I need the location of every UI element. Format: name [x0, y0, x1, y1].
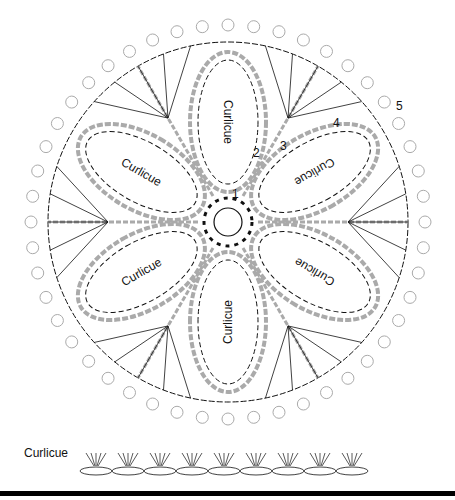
- picot: [393, 315, 405, 327]
- picot: [66, 336, 78, 348]
- picot: [404, 141, 416, 153]
- fan-stitch: [288, 326, 318, 378]
- fan-stitch: [288, 326, 341, 362]
- picot: [51, 118, 63, 130]
- fan-stitch: [348, 166, 399, 222]
- picot: [342, 372, 354, 384]
- picot: [248, 411, 260, 423]
- picot: [297, 398, 309, 410]
- bottom-rule: [0, 491, 455, 496]
- legend-chain: [304, 467, 336, 475]
- round-number: 5: [396, 99, 403, 113]
- picot: [417, 242, 429, 254]
- crochet-diagram: CurlicueCurlicueCurlicueCurlicueCurlicue…: [0, 0, 455, 500]
- legend-chain: [112, 467, 144, 475]
- picot: [222, 19, 234, 31]
- picot: [378, 336, 390, 348]
- picot: [321, 45, 333, 57]
- legend-chain: [240, 467, 272, 475]
- svg-text:Curlicue: Curlicue: [292, 255, 337, 289]
- picot: [40, 141, 52, 153]
- picot: [378, 96, 390, 108]
- picot: [412, 165, 424, 177]
- picot: [222, 413, 234, 425]
- picot: [32, 267, 44, 279]
- fan-stitch: [168, 46, 191, 118]
- picot: [321, 387, 333, 399]
- picot: [27, 190, 39, 202]
- picot: [196, 411, 208, 423]
- picot: [273, 26, 285, 38]
- fan-stitch: [265, 46, 288, 118]
- picot: [297, 34, 309, 46]
- petal-curlicue: Curlicue: [62, 204, 221, 340]
- fan-stitch: [288, 66, 318, 118]
- picot: [342, 60, 354, 72]
- picot: [147, 34, 159, 46]
- picot: [102, 60, 114, 72]
- fan-stitch: [348, 194, 406, 222]
- fan-stitch: [138, 66, 168, 118]
- svg-text:Curlicue: Curlicue: [119, 255, 164, 289]
- fan-stitch: [94, 326, 168, 343]
- petal-curlicue: Curlicue: [190, 252, 266, 392]
- picot: [404, 291, 416, 303]
- svg-text:Curlicue: Curlicue: [119, 155, 164, 189]
- picot: [40, 291, 52, 303]
- fan-stitch: [138, 326, 168, 378]
- legend-chain: [144, 467, 176, 475]
- fan-stitch: [57, 166, 108, 222]
- round-number: 1: [232, 187, 239, 201]
- round-number: 3: [280, 139, 287, 153]
- fan-stitch: [57, 222, 108, 278]
- round-1: [204, 198, 252, 246]
- picot: [361, 77, 373, 89]
- picot: [419, 216, 431, 228]
- legend-chain: [80, 467, 112, 475]
- picot: [102, 372, 114, 384]
- fan-stitch: [50, 222, 108, 250]
- fan-stitch: [168, 326, 191, 398]
- picot: [51, 315, 63, 327]
- legend-chain: [336, 467, 368, 475]
- legend-chain: [272, 467, 304, 475]
- picot: [171, 406, 183, 418]
- picot: [83, 77, 95, 89]
- round-number: 4: [333, 116, 340, 130]
- picot: [412, 267, 424, 279]
- picot: [25, 216, 37, 228]
- picot: [83, 355, 95, 367]
- round-number: 2: [253, 146, 260, 160]
- fan-stitch: [288, 102, 362, 119]
- picot: [196, 21, 208, 33]
- petal-curlicue: Curlicue: [235, 204, 394, 340]
- fan-stitch: [115, 326, 168, 362]
- fan-stitch: [94, 102, 168, 119]
- petal-curlicue: Curlicue: [62, 104, 221, 240]
- picot: [171, 26, 183, 38]
- fan-stitch: [288, 82, 341, 118]
- svg-text:Curlicue: Curlicue: [221, 100, 235, 144]
- picot: [417, 190, 429, 202]
- fan-stitch: [265, 326, 288, 398]
- fan-stitch: [115, 82, 168, 118]
- center-ring: [214, 208, 242, 236]
- picot: [147, 398, 159, 410]
- svg-text:Curlicue: Curlicue: [292, 155, 337, 189]
- fan-stitch: [50, 194, 108, 222]
- picot: [66, 96, 78, 108]
- petal-curlicue: Curlicue: [235, 104, 394, 240]
- fan-stitch: [348, 222, 399, 278]
- picot: [248, 21, 260, 33]
- fan-stitch: [288, 326, 362, 343]
- picot: [124, 387, 136, 399]
- picot: [273, 406, 285, 418]
- picot: [32, 165, 44, 177]
- legend-chain: [208, 467, 240, 475]
- picot: [27, 242, 39, 254]
- fan-stitch: [348, 222, 406, 250]
- picot: [124, 45, 136, 57]
- svg-text:Curlicue: Curlicue: [221, 300, 235, 344]
- picot: [361, 355, 373, 367]
- petal-curlicue: Curlicue: [190, 52, 266, 192]
